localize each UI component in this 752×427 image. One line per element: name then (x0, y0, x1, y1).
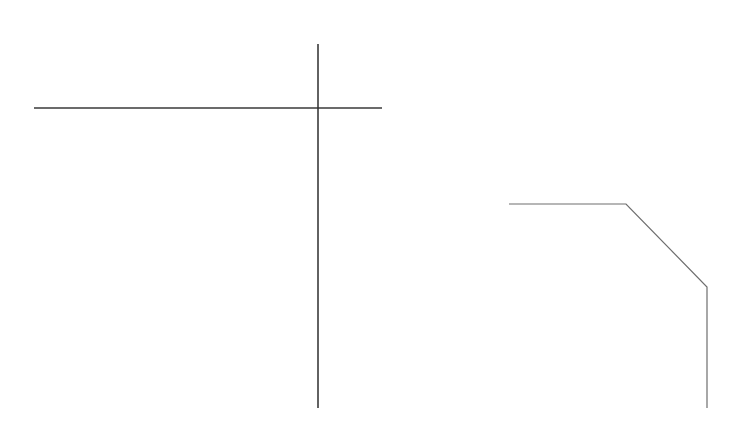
drawing-canvas (0, 0, 752, 427)
bent-polyline (509, 204, 707, 408)
